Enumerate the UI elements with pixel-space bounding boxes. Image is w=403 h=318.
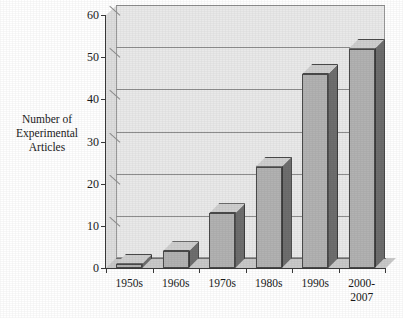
bar-front-face xyxy=(209,213,235,268)
gridline xyxy=(116,132,385,133)
x-axis-tick-mark xyxy=(199,268,200,273)
bar-chart: Number of Experimental Articles 01020304… xyxy=(0,0,403,318)
gridline xyxy=(116,174,385,175)
x-axis-tick-mark xyxy=(106,268,107,273)
x-axis-tick-mark xyxy=(292,268,293,273)
x-axis-tick-label: 2000-2007 xyxy=(339,276,386,304)
bar xyxy=(116,254,152,268)
y-axis-tick-label: 60 xyxy=(70,9,99,21)
x-axis-tick-label: 1950s xyxy=(106,276,153,290)
bar-front-face xyxy=(116,264,142,268)
y-axis-tick-label: 50 xyxy=(70,51,99,63)
x-axis-tick-label: 1980s xyxy=(246,276,293,290)
x-axis-tick-label-line: 1990s xyxy=(292,276,339,290)
gridline xyxy=(116,47,385,48)
x-axis-tick-mark xyxy=(339,268,340,273)
bar-side-face xyxy=(235,203,245,268)
x-axis-tick-label-line: 1950s xyxy=(106,276,153,290)
bar-front-face xyxy=(349,49,375,268)
x-axis-tick-mark xyxy=(153,268,154,273)
bar xyxy=(256,157,292,268)
bar-side-face xyxy=(328,64,338,268)
x-axis-tick-label: 1970s xyxy=(199,276,246,290)
x-axis-tick-label: 1960s xyxy=(153,276,200,290)
x-axis-tick-label-line: 1980s xyxy=(246,276,293,290)
gridline xyxy=(116,216,385,217)
x-axis-tick-label-line: 2000- xyxy=(339,276,386,290)
x-axis-tick-label-line: 2007 xyxy=(339,290,386,304)
bar xyxy=(163,241,199,268)
x-axis-tick-mark xyxy=(246,268,247,273)
bar-side-face xyxy=(375,39,385,268)
gridline xyxy=(116,89,385,90)
y-axis-tick-label: 20 xyxy=(70,178,99,190)
x-axis-tick-mark xyxy=(385,268,386,273)
x-axis-tick-label-line: 1970s xyxy=(199,276,246,290)
bar-front-face xyxy=(302,74,328,268)
x-axis-tick-label: 1990s xyxy=(292,276,339,290)
bar xyxy=(349,39,385,268)
bar-front-face xyxy=(256,167,282,268)
x-axis-back-line xyxy=(116,258,386,259)
y-axis-tick-label: 0 xyxy=(70,262,99,274)
bar-side-face xyxy=(282,157,292,268)
y-axis-tick-label: 40 xyxy=(70,93,99,105)
y-axis-line xyxy=(105,15,106,269)
y-axis-title-line-1: Number of xyxy=(6,112,88,126)
x-axis-tick-label-line: 1960s xyxy=(153,276,200,290)
bar-front-face xyxy=(163,251,189,268)
gridline xyxy=(116,5,385,6)
y-axis-title: Number of Experimental Articles xyxy=(6,112,88,154)
y-axis-tick-label: 10 xyxy=(70,220,99,232)
bar xyxy=(209,203,245,268)
y-axis-tick-label: 30 xyxy=(70,136,99,148)
bar xyxy=(302,64,338,268)
